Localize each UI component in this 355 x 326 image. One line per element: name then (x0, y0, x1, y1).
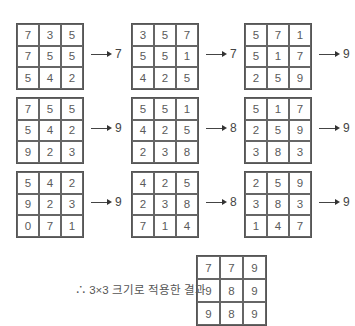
max-arrow: 9 (319, 47, 350, 61)
result-grid: 7 7 9 9 8 9 9 8 9 (196, 255, 267, 326)
window-cell: 9 (17, 141, 39, 163)
window-cell: 5 (39, 46, 61, 68)
window-cell: 8 (267, 141, 289, 163)
result-cell: 9 (243, 279, 266, 302)
max-arrow: 7 (91, 47, 122, 61)
window-cell: 2 (39, 194, 61, 216)
window-cell: 2 (39, 141, 61, 163)
window-cell: 5 (39, 98, 61, 120)
window-cell: 5 (17, 172, 39, 194)
window-cell: 9 (289, 67, 311, 89)
window-cell: 5 (154, 98, 176, 120)
window-cell: 5 (17, 120, 39, 142)
window-cell: 3 (154, 194, 176, 216)
max-arrow: 9 (319, 121, 350, 135)
window-cell: 8 (176, 194, 198, 216)
window-cell: 4 (39, 120, 61, 142)
max-value: 7 (230, 47, 237, 61)
window-cell: 5 (245, 24, 267, 46)
window-cell: 1 (154, 215, 176, 237)
window-grid: 551425238 (131, 97, 199, 164)
window-cell: 3 (132, 24, 154, 46)
window-cell: 3 (289, 194, 311, 216)
max-value: 7 (115, 47, 122, 61)
window-cell: 1 (289, 24, 311, 46)
window-cell: 5 (61, 46, 83, 68)
window-cell: 7 (17, 24, 39, 46)
window-cell: 2 (154, 120, 176, 142)
window-cell: 4 (267, 215, 289, 237)
result-cell: 9 (243, 302, 266, 325)
window-cell: 5 (245, 98, 267, 120)
window-cell: 8 (267, 194, 289, 216)
result-caption: ∴ 3×3 크기로 적용한 결과 (75, 281, 206, 297)
window-cell: 5 (154, 24, 176, 46)
arrow-right-icon (91, 202, 108, 203)
window-cell: 2 (132, 194, 154, 216)
window-cell: 7 (17, 46, 39, 68)
window-grid: 542923071 (16, 171, 84, 238)
result-cell: 8 (220, 302, 243, 325)
result-cell: 9 (197, 302, 220, 325)
window-cell: 4 (132, 172, 154, 194)
window-cell: 4 (132, 120, 154, 142)
max-value: 8 (230, 121, 237, 135)
window-cell: 2 (245, 172, 267, 194)
window-cell: 8 (176, 141, 198, 163)
window-cell: 7 (289, 215, 311, 237)
window-cell: 2 (61, 172, 83, 194)
result-cell: 9 (197, 279, 220, 302)
max-value: 9 (343, 47, 350, 61)
result-cell: 8 (220, 279, 243, 302)
window-cell: 5 (267, 172, 289, 194)
max-arrow: 9 (91, 121, 122, 135)
window-grid: 425238714 (131, 171, 199, 238)
window-cell: 2 (245, 120, 267, 142)
window-cell: 3 (289, 141, 311, 163)
window-cell: 5 (267, 120, 289, 142)
window-cell: 2 (132, 141, 154, 163)
window-cell: 4 (39, 172, 61, 194)
result-cell: 9 (243, 256, 266, 279)
window-grid: 571517259 (244, 23, 312, 90)
window-cell: 2 (61, 120, 83, 142)
arrow-right-icon (319, 128, 336, 129)
arrow-right-icon (91, 54, 108, 55)
max-value: 9 (343, 121, 350, 135)
window-cell: 1 (267, 98, 289, 120)
max-value: 9 (115, 195, 122, 209)
window-cell: 5 (176, 120, 198, 142)
window-grid: 517259383 (244, 97, 312, 164)
window-cell: 4 (176, 215, 198, 237)
window-cell: 3 (61, 194, 83, 216)
window-cell: 7 (176, 24, 198, 46)
window-cell: 5 (245, 46, 267, 68)
max-arrow: 9 (319, 195, 350, 209)
window-cell: 3 (61, 141, 83, 163)
window-cell: 5 (61, 98, 83, 120)
window-cell: 2 (61, 67, 83, 89)
window-cell: 9 (289, 120, 311, 142)
window-cell: 7 (39, 215, 61, 237)
window-cell: 1 (245, 215, 267, 237)
window-cell: 7 (132, 215, 154, 237)
window-cell: 1 (176, 98, 198, 120)
window-cell: 9 (289, 172, 311, 194)
window-cell: 4 (39, 67, 61, 89)
window-cell: 3 (245, 141, 267, 163)
arrow-right-icon (319, 202, 336, 203)
window-cell: 1 (176, 46, 198, 68)
max-arrow: 9 (91, 195, 122, 209)
window-cell: 5 (176, 67, 198, 89)
arrow-right-icon (91, 128, 108, 129)
window-cell: 9 (17, 194, 39, 216)
window-cell: 2 (245, 67, 267, 89)
window-cell: 1 (267, 46, 289, 68)
window-grid: 357551425 (131, 23, 199, 90)
window-cell: 3 (245, 194, 267, 216)
result-cell: 7 (220, 256, 243, 279)
window-cell: 5 (267, 67, 289, 89)
window-cell: 5 (154, 46, 176, 68)
window-cell: 5 (132, 98, 154, 120)
max-arrow: 7 (206, 47, 237, 61)
